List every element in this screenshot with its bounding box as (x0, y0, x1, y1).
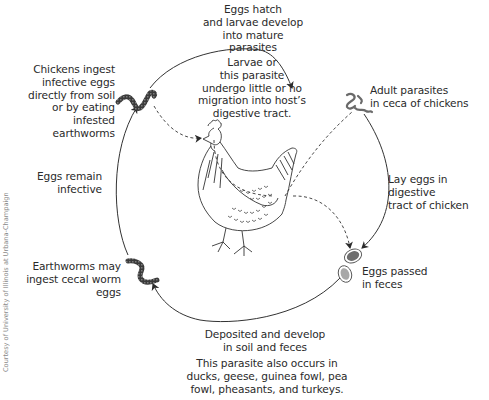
earthworm-icon (118, 92, 155, 108)
stage-label-hatch: Eggs hatch and larvae develop into matur… (198, 3, 308, 54)
dashed-body-to-eggs (293, 196, 350, 248)
arc-bottom (153, 278, 340, 322)
image-credit: Courtesy of University of Illinois at Ur… (2, 212, 10, 372)
egg-icon (336, 264, 354, 284)
chicken-illustration (198, 120, 297, 256)
stage-label-earthworm: Earthworms may ingest cecal worm eggs (20, 260, 121, 298)
stage-label-ingest: Chickens ingest infective eggs directly … (10, 63, 115, 140)
stage-label-lay: Lay eggs in digestive tract of chicken (388, 173, 489, 211)
earthworm-icon (128, 261, 157, 282)
egg-icon (342, 246, 364, 265)
arc-left (116, 107, 137, 255)
dashed-paths (154, 106, 352, 248)
stage-label-remain: Eggs remain infective (20, 170, 102, 196)
arc-right (362, 114, 389, 248)
stage-label-passed: Eggs passed in feces (362, 265, 442, 291)
dashed-beak-through-body (214, 140, 274, 196)
stage-label-deposited: Deposited and develop in soil and feces (190, 328, 340, 354)
adult-parasite-icon (347, 94, 372, 112)
stage-label-migration: Larvae or this parasite undergo little o… (192, 56, 312, 120)
stage-label-adult: Adult parasites in ceca of chickens (370, 84, 488, 110)
stage-label-hosts: This parasite also occurs in ducks, gees… (172, 357, 362, 395)
life-cycle-diagram: Eggs hatch and larvae develop into matur… (0, 0, 489, 400)
dashed-body-to-parasites (285, 112, 352, 196)
